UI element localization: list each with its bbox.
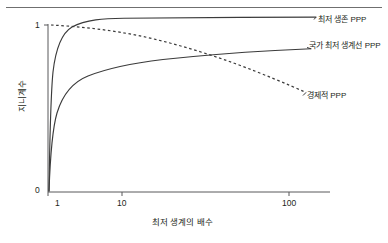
figure-container: 1 10 100 1 0 최저 생계의 배수 지니계수 최저 생존 PPP 국가… [0,0,388,243]
leader-line-economic [303,93,306,96]
y-tick-label-1: 1 [35,21,40,30]
x-tick-label-100: 100 [282,199,296,208]
series-line-survival [49,17,316,191]
series-line-national [49,49,311,191]
x-axis-title: 최저 생계의 배수 [152,218,213,227]
y-axis-title: 지니계수 [18,66,27,126]
plot-area: 1 10 100 1 0 최저 생계의 배수 지니계수 최저 생존 PPP 국가… [0,0,388,243]
series-label-survival: 최저 생존 PPP [318,16,366,24]
series-label-economic: 경제적 PPP [307,92,346,100]
y-tick-label-0: 0 [35,186,40,195]
x-tick-label-1: 1 [55,199,60,208]
x-tick-label-10: 10 [117,199,126,208]
series-label-national: 국가 최저 생계선 PPP [309,42,381,50]
series-line-economic [51,25,306,93]
